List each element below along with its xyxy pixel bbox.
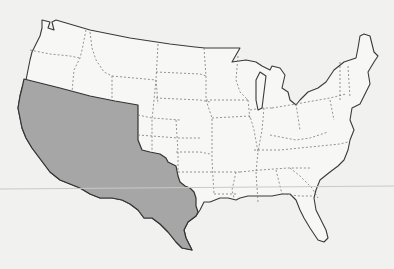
us-map xyxy=(0,0,394,269)
map-container: Contiguous United States with shaded reg… xyxy=(0,0,394,269)
